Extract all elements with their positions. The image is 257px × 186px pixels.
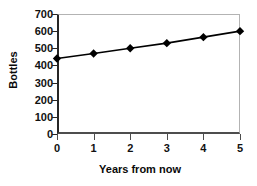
x-axis-title: Years from now bbox=[30, 163, 250, 175]
x-axis-tick-labels: 012345 bbox=[57, 142, 240, 158]
x-tick-mark bbox=[57, 134, 58, 140]
x-tick-label: 3 bbox=[154, 142, 180, 154]
x-tick-mark bbox=[167, 134, 168, 140]
x-tick-label: 2 bbox=[117, 142, 143, 154]
x-tick-mark bbox=[240, 134, 241, 140]
x-tick-label: 1 bbox=[81, 142, 107, 154]
x-axis-tick-marks bbox=[57, 134, 240, 141]
plot-area-frame bbox=[57, 14, 240, 134]
x-tick-label: 4 bbox=[190, 142, 216, 154]
chart-container: Bottles 0100200300400500600700 012345 Ye… bbox=[0, 0, 257, 186]
y-axis-tick-marks bbox=[0, 14, 57, 134]
x-tick-mark bbox=[94, 134, 95, 140]
x-tick-label: 0 bbox=[44, 142, 70, 154]
x-tick-mark bbox=[130, 134, 131, 140]
x-tick-mark bbox=[203, 134, 204, 140]
x-tick-label: 5 bbox=[227, 142, 253, 154]
